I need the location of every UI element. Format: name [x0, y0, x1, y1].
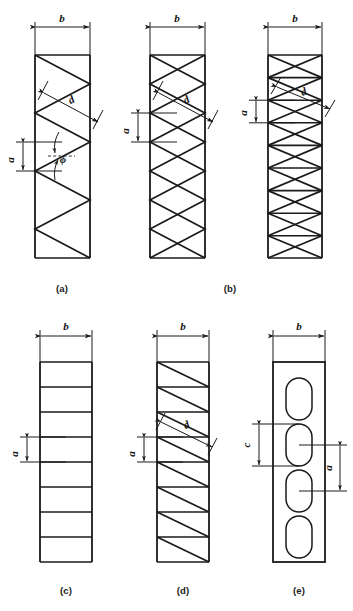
panel-b-left-dim-b — [150, 22, 205, 55]
lattice-column-figure: b a d ϕ b a d b a d b a b a d b c a (a) … — [0, 0, 353, 611]
caption-panel-b: (b) — [200, 283, 260, 294]
panel-b-left-diagram — [131, 22, 218, 258]
caption-panel-d: (d) — [153, 585, 213, 596]
panel-d-diagram — [137, 330, 217, 562]
panel-e-label-a: a — [322, 465, 334, 471]
panel-b-right-label-d: d — [299, 85, 309, 98]
panel-b-right-label-b: b — [292, 12, 298, 24]
panel-b-left-label-d: d — [181, 93, 192, 106]
panel-b-right-dim-b — [268, 22, 322, 55]
panel-e-diagram — [252, 330, 347, 562]
panel-d-label-a: a — [125, 451, 137, 457]
panel-c-label-b: b — [63, 320, 69, 332]
panel-c-diagram — [20, 330, 92, 562]
panel-b-left-label-a: a — [119, 128, 131, 134]
panel-b-left-label-b: b — [174, 12, 180, 24]
panel-a-diagram — [16, 22, 103, 258]
panel-e-dim-b — [273, 330, 325, 362]
panel-a-label-d: d — [66, 93, 77, 106]
figure-svg: b a d ϕ b a d b a d b a b a d b c a — [0, 0, 353, 611]
panel-c-dim-b — [40, 330, 92, 362]
caption-panel-e: (e) — [269, 585, 329, 596]
panel-b-right-diagram — [249, 22, 335, 258]
caption-panel-a: (a) — [32, 283, 92, 294]
panel-a-dim-b — [35, 22, 90, 55]
panel-d-label-b: b — [180, 320, 186, 332]
panel-e-slots — [286, 378, 312, 558]
panel-b-left-dim-a — [131, 113, 177, 142]
panel-c-dim-a — [20, 437, 66, 462]
panel-e-dim-c — [252, 424, 299, 466]
panel-e-label-b: b — [296, 320, 302, 332]
panel-d-dim-a — [137, 437, 183, 462]
caption-panel-c: (c) — [36, 585, 96, 596]
panel-b-right-label-a: a — [237, 110, 249, 116]
panel-c-label-a: a — [8, 451, 20, 457]
panel-a-label-phi: ϕ — [60, 153, 67, 165]
panel-e-plate-outline — [273, 362, 325, 562]
panel-e-label-c: c — [240, 442, 252, 447]
panel-d-dim-b — [157, 330, 209, 362]
panel-b-left-lacing — [150, 55, 205, 258]
panel-d-label-d: d — [181, 418, 192, 431]
panel-a-label-a: a — [4, 157, 16, 163]
panel-b-right-dim-a — [249, 100, 295, 123]
panel-a-label-b: b — [59, 12, 65, 24]
